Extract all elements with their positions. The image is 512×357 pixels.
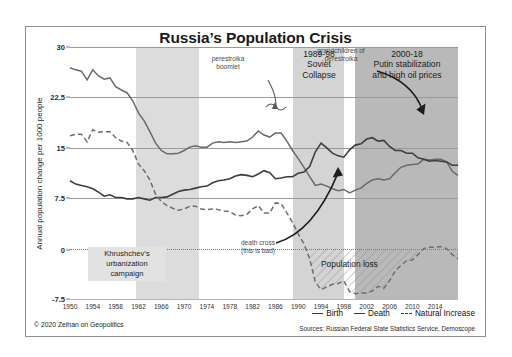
- copyright-note: © 2020 Zeihan on Geopolitics: [34, 321, 124, 328]
- x-tick-label: 1958: [108, 303, 123, 310]
- banner-line: 1989-98: [294, 49, 344, 59]
- banner-line: Putin stabilization: [357, 59, 457, 69]
- line-swatch-icon: [354, 313, 365, 314]
- x-tick-label: 1974: [200, 303, 215, 310]
- banner-line: Collapse: [294, 70, 344, 80]
- annotation-death-cross: death cross (this is bad): [218, 239, 298, 255]
- x-tick-label: 1982: [245, 303, 260, 310]
- x-tick-label: 1954: [85, 303, 100, 310]
- annotation-line: boomlet: [188, 63, 268, 71]
- y-tick-label: 0: [61, 245, 65, 254]
- x-tick-label: 1986: [268, 303, 283, 310]
- death-cross-arrow: [276, 167, 343, 243]
- chart-title: Russia’s Population Crisis: [26, 29, 485, 47]
- annotation-line: urbanization: [92, 259, 162, 269]
- banner-putin: 2000-18 Putin stabilization and high oil…: [356, 47, 458, 80]
- y-axis-label-text: Annual population change per 1000 people: [35, 97, 44, 250]
- y-tick-label: 30: [57, 43, 65, 52]
- dashed-line-swatch-icon: [401, 313, 412, 314]
- legend-item-natural-increase: Natural Increase: [401, 309, 475, 318]
- gridline-minus-7-5: -7.5: [70, 299, 458, 300]
- banner-line: 2000-18: [357, 49, 457, 59]
- annotation-line: Khrushchev’s: [92, 249, 162, 259]
- sources-note: Sources: Russian Federal State Statistic…: [299, 325, 475, 332]
- chart-legend: Birth Death Natural Increase: [312, 309, 475, 318]
- annotation-line: perestroika: [188, 55, 268, 63]
- annotation-line: (this is bad): [218, 247, 298, 255]
- legend-item-birth: Birth: [312, 309, 343, 318]
- annotation-population-loss: Population loss: [321, 259, 378, 269]
- annotation-line: death cross: [218, 239, 298, 247]
- plot-area: 30 22.5 15 7.5 0 -7.5: [70, 47, 458, 299]
- chart-figure: Russia’s Population Crisis Annual popula…: [25, 26, 486, 337]
- y-axis-label: Annual population change per 1000 people: [32, 47, 46, 299]
- banner-line: and high oil prices: [357, 70, 457, 80]
- population-loss-area: [310, 249, 458, 294]
- y-tick-label: 15: [57, 143, 65, 152]
- line-swatch-icon: [312, 313, 323, 314]
- x-tick-label: 1950: [63, 303, 78, 310]
- legend-label: Birth: [326, 309, 343, 318]
- x-tick-label: 1990: [291, 303, 306, 310]
- banner-line: Soviet: [294, 59, 344, 69]
- x-tick-label: 1966: [154, 303, 169, 310]
- annotation-perestroika-boomlet: perestroika boomlet: [188, 55, 268, 71]
- y-tick-label: 22.5: [50, 93, 65, 102]
- x-tick-label: 1978: [222, 303, 237, 310]
- annotation-line: campaign: [92, 269, 162, 279]
- callout-arrows: [266, 80, 286, 110]
- legend-item-death: Death: [354, 309, 390, 318]
- line-birth: [70, 68, 458, 193]
- legend-label: Death: [368, 309, 390, 318]
- x-tick-label: 1970: [177, 303, 192, 310]
- annotation-khrushchev-campaign: Khrushchev’s urbanization campaign: [88, 247, 166, 281]
- banner-soviet-collapse: 1989-98 Soviet Collapse: [293, 47, 345, 80]
- y-tick-label: 7.5: [54, 194, 65, 203]
- x-tick-label: 1962: [131, 303, 146, 310]
- legend-label: Natural Increase: [415, 309, 475, 318]
